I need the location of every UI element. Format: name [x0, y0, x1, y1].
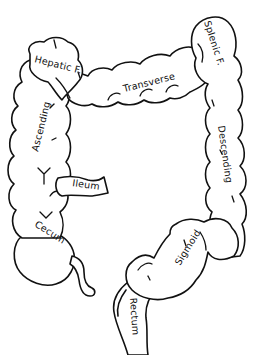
- transverse-segment: [62, 47, 206, 107]
- colon-diagram: Hepatic F. Transverse Splenic F. Ascendi…: [0, 0, 266, 355]
